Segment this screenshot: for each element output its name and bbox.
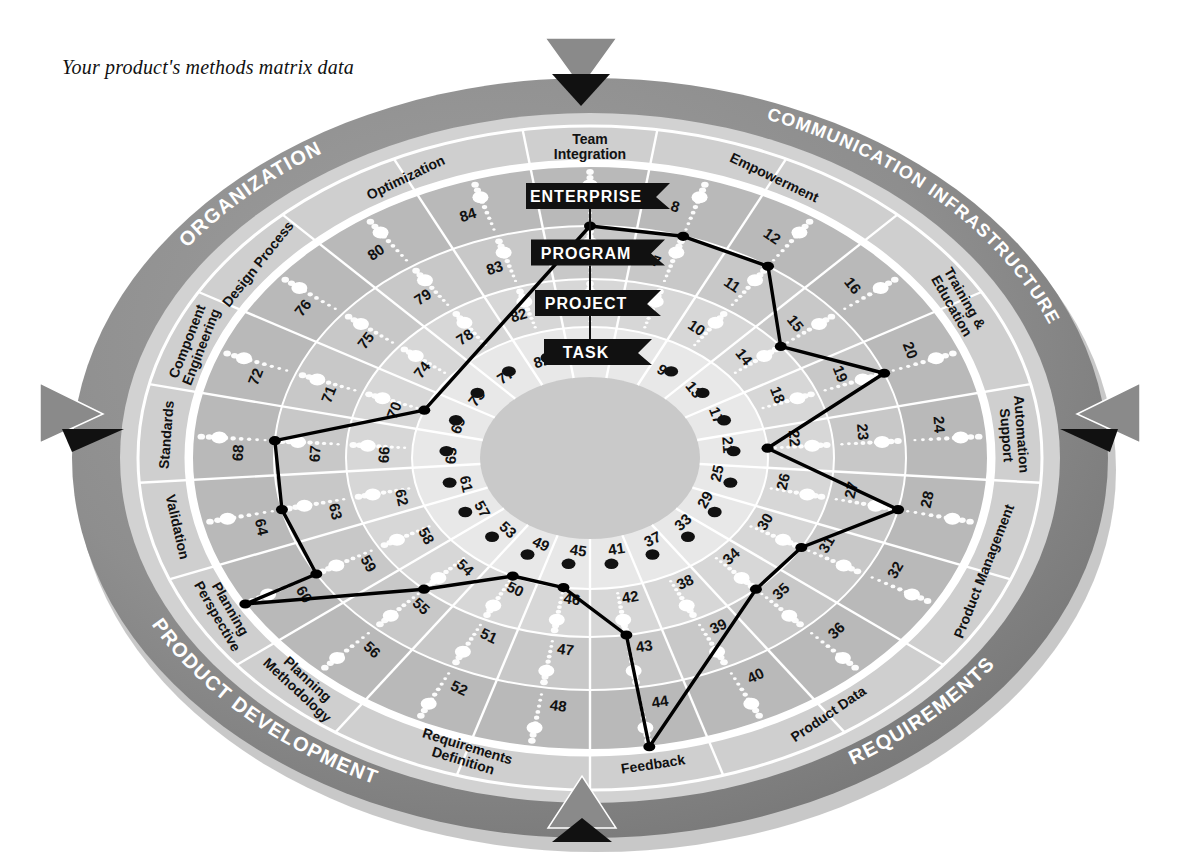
- ring-flag-task: TASK: [544, 339, 652, 365]
- svg-text:67: 67: [305, 445, 323, 463]
- svg-text:65: 65: [441, 447, 459, 465]
- svg-text:PROGRAM: PROGRAM: [541, 245, 632, 262]
- svg-text:TASK: TASK: [563, 344, 609, 361]
- hub: [480, 377, 700, 539]
- svg-text:ENTERPRISE: ENTERPRISE: [530, 188, 642, 205]
- methods-matrix-wheel[interactable]: 1234567891011121314151617181920212223242…: [0, 0, 1179, 858]
- svg-text:45: 45: [569, 540, 588, 559]
- svg-text:21: 21: [719, 436, 737, 454]
- svg-text:23: 23: [854, 423, 872, 441]
- svg-text:44: 44: [650, 691, 670, 710]
- svg-text:66: 66: [374, 446, 392, 464]
- svg-text:43: 43: [635, 636, 654, 655]
- svg-text:48: 48: [549, 696, 568, 715]
- svg-text:68: 68: [228, 444, 246, 462]
- svg-text:41: 41: [607, 539, 626, 558]
- svg-text:42: 42: [621, 587, 640, 606]
- svg-text:47: 47: [556, 640, 575, 659]
- svg-text:24: 24: [930, 416, 948, 435]
- svg-text:PROJECT: PROJECT: [545, 295, 628, 312]
